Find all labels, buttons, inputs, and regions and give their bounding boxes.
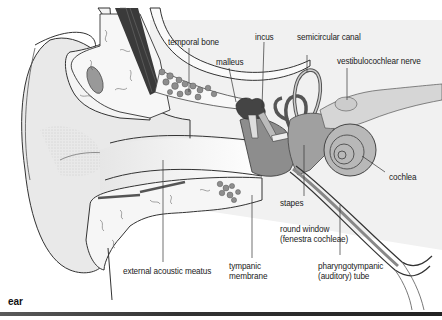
- label-round-window: round window: [280, 225, 329, 235]
- label-stapes: stapes: [280, 199, 304, 209]
- label-pharyngotympanic-tube: pharyngotympanic: [318, 262, 383, 272]
- figure-caption: ear: [8, 296, 23, 307]
- label-tympanic-membrane: membrane: [229, 272, 267, 282]
- label-external-acoustic-meatus: external acoustic meatus: [123, 267, 211, 277]
- label-round-window-latin: (fenestra cochleae): [280, 235, 348, 245]
- label-cochlea: cochlea: [389, 173, 417, 183]
- ear-anatomy-illustration: [0, 0, 442, 320]
- label-vestibulocochlear-nerve: vestibulocochlear nerve: [337, 57, 421, 67]
- label-incus: incus: [255, 33, 274, 43]
- label-temporal-bone: temporal bone: [168, 38, 219, 48]
- caption-rule: [0, 312, 442, 316]
- label-malleus: malleus: [216, 58, 244, 68]
- label-semicircular-canal: semicircular canal: [297, 33, 361, 43]
- lower-bone: [86, 177, 262, 300]
- label-tympanic: tympanic: [229, 262, 261, 272]
- label-auditory-tube: (auditory) tube: [318, 272, 369, 282]
- cochlea: [324, 124, 376, 176]
